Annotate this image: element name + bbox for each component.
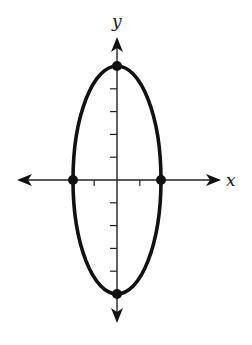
ellipse-graph: y x: [0, 0, 252, 345]
vertex-bottom: [112, 289, 122, 299]
x-axis: [17, 174, 221, 186]
co-vertex-left: [68, 175, 78, 185]
y-axis-label: y: [111, 11, 122, 31]
co-vertex-right: [156, 175, 166, 185]
vertex-top: [112, 61, 122, 71]
x-axis-label: x: [226, 170, 236, 190]
